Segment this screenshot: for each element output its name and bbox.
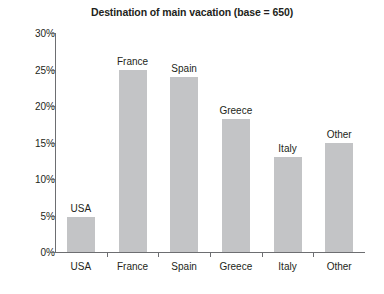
- y-axis-line: [55, 33, 56, 252]
- y-axis-tick-mark: [50, 179, 55, 180]
- bar[interactable]: [274, 157, 302, 252]
- y-axis-tick-mark: [50, 143, 55, 144]
- bar-label: USA: [51, 203, 111, 214]
- bar-label: Other: [309, 129, 369, 140]
- y-axis-tick-label: 30%: [9, 28, 55, 39]
- x-axis-tick-mark: [210, 252, 211, 257]
- bar[interactable]: [170, 77, 198, 252]
- y-axis-tick-label: 5%: [9, 210, 55, 221]
- bar-chart: Destination of main vacation (base = 650…: [0, 0, 384, 294]
- bar[interactable]: [119, 70, 147, 252]
- y-axis-tick-mark: [50, 106, 55, 107]
- y-axis-tick-label: 25%: [9, 64, 55, 75]
- x-axis-tick-mark: [313, 252, 314, 257]
- y-axis-tick-label: 20%: [9, 101, 55, 112]
- x-axis-tick-mark: [107, 252, 108, 257]
- bar-label: Greece: [206, 105, 266, 116]
- y-axis-tick-mark: [50, 252, 55, 253]
- bar-label: Italy: [258, 143, 318, 154]
- y-axis-tick-label: 0%: [9, 247, 55, 258]
- x-axis-tick-label: Other: [304, 261, 374, 272]
- x-axis-tick-mark: [158, 252, 159, 257]
- y-axis-tick-mark: [50, 216, 55, 217]
- bar[interactable]: [222, 119, 250, 252]
- y-axis-tick-mark: [50, 70, 55, 71]
- x-axis-tick-mark: [262, 252, 263, 257]
- bar-label: Spain: [154, 63, 214, 74]
- y-axis-tick-label: 10%: [9, 174, 55, 185]
- y-axis-tick-label: 15%: [9, 137, 55, 148]
- y-axis-tick-mark: [50, 33, 55, 34]
- bar[interactable]: [67, 217, 95, 252]
- chart-title: Destination of main vacation (base = 650…: [0, 6, 384, 18]
- bar[interactable]: [325, 143, 353, 253]
